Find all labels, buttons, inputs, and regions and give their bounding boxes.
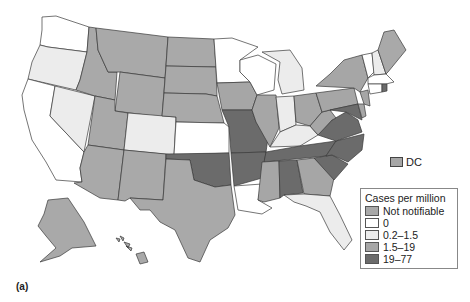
legend-item: 19–77: [365, 253, 453, 265]
state-iowa: [217, 82, 257, 110]
legend-label: 0.2–1.5: [383, 229, 418, 241]
state-alaska: [38, 198, 96, 262]
dc-swatch: [390, 157, 403, 167]
legend-item: Not notifiable: [365, 205, 453, 217]
legend-item: 1.5–19: [365, 241, 453, 253]
legend-label: 1.5–19: [383, 241, 415, 253]
legend-swatch: [365, 230, 379, 240]
state-mississippi: [258, 161, 280, 202]
legend-item: 0: [365, 217, 453, 229]
legend-swatch: [365, 254, 379, 264]
state-south-dakota: [164, 66, 217, 96]
legend-swatch: [365, 242, 379, 252]
state-colorado: [124, 113, 176, 155]
state-connecticut: [368, 84, 382, 94]
state-north-dakota: [166, 37, 216, 67]
state-new-york: [316, 55, 368, 92]
state-hawaii: [116, 236, 148, 264]
legend-title: Cases per million: [365, 192, 453, 204]
legend-swatch: [365, 218, 379, 228]
state-new-mexico: [118, 150, 166, 201]
legend-label: Not notifiable: [383, 205, 444, 217]
legend-swatch: [365, 206, 379, 216]
state-rhode-island: [382, 84, 387, 92]
figure-caption: (a): [16, 281, 28, 292]
state-florida: [284, 194, 352, 250]
legend-item: 0.2–1.5: [365, 229, 453, 241]
state-wyoming: [115, 72, 165, 117]
dc-indicator: DC: [390, 156, 422, 168]
legend-label: 0: [383, 217, 389, 229]
legend-label: 19–77: [383, 253, 412, 265]
state-kansas: [174, 122, 229, 155]
state-massachusetts: [368, 74, 394, 84]
map-legend: Cases per million Not notifiable 0 0.2–1…: [360, 188, 458, 269]
state-new-jersey: [360, 90, 370, 106]
dc-label-text: DC: [406, 156, 422, 168]
